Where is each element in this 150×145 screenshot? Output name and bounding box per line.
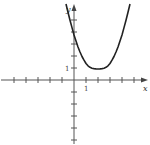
y-axis-arrow-icon — [72, 4, 77, 11]
parabola-line — [66, 4, 130, 69]
chart-canvas: y x 1 1 — [0, 0, 150, 145]
x-tick-label-1: 1 — [84, 85, 88, 93]
y-tick-label-1: 1 — [65, 65, 69, 73]
x-axis-label: x — [143, 84, 148, 93]
x-axis-arrow-icon — [141, 78, 148, 83]
parabola-curve — [66, 4, 130, 68]
